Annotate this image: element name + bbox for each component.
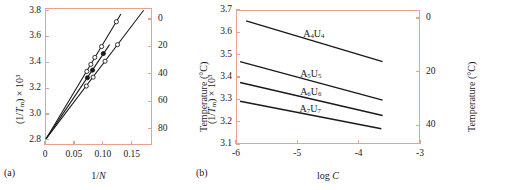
- tick-mark: [131, 141, 132, 145]
- tick-mark: [416, 125, 420, 126]
- tick-mark: [148, 128, 152, 129]
- tick-label: 3.6: [204, 27, 232, 37]
- data-point-marker: [93, 55, 97, 59]
- data-point-marker: [115, 43, 119, 47]
- tick-label: 80: [158, 124, 180, 134]
- tick-mark: [235, 140, 236, 144]
- tick-label: -5: [281, 149, 313, 159]
- panel-a-y-axis-title: (1/Tm) × 103: [14, 75, 25, 124]
- tick-mark: [148, 18, 152, 19]
- data-point-marker: [84, 84, 88, 88]
- tick-label: 3.7: [204, 5, 232, 15]
- tick-label: 0.10: [87, 150, 119, 160]
- tick-mark: [236, 76, 240, 77]
- tick-label: 3.5: [204, 50, 232, 60]
- data-series-series-3: [46, 10, 144, 139]
- tick-label: 3.1: [204, 139, 232, 149]
- tick-label: 0: [158, 14, 180, 24]
- series-line: [46, 45, 110, 139]
- data-point-marker: [101, 52, 105, 56]
- tick-mark: [148, 73, 152, 74]
- panel-b-right-axis-title: Temperature (°C): [466, 62, 477, 132]
- tick-mark: [148, 46, 152, 47]
- panel-b-plot-frame: A4U4A5U5A6U6A7U7: [236, 10, 420, 144]
- tick-label: 2.8: [13, 135, 41, 145]
- tick-mark: [45, 36, 49, 37]
- series-label-A6U6: A6U6: [300, 86, 321, 97]
- tick-label: -4: [343, 149, 375, 159]
- panel-a-x-axis-title: 1/N: [0, 170, 197, 181]
- tick-mark: [419, 140, 420, 144]
- data-point-marker: [103, 59, 107, 63]
- data-point-marker: [114, 20, 118, 24]
- data-series-series-2: [46, 45, 110, 139]
- tick-mark: [44, 141, 45, 145]
- tick-label: -6: [220, 149, 252, 159]
- panel-a-caption: (a): [4, 167, 15, 178]
- data-series-series-1: [46, 14, 121, 139]
- data-point-marker: [89, 62, 93, 66]
- data-point-marker: [91, 75, 95, 79]
- tick-mark: [148, 101, 152, 102]
- tick-label: 0: [426, 13, 448, 23]
- tick-mark: [236, 143, 240, 144]
- tick-mark: [416, 17, 420, 18]
- series-label-A7U7: A7U7: [300, 103, 321, 114]
- tick-label: 40: [158, 69, 180, 79]
- data-point-marker: [85, 76, 89, 80]
- series-line: [46, 14, 121, 139]
- tick-mark: [236, 99, 240, 100]
- tick-label: 60: [158, 96, 180, 106]
- tick-mark: [236, 54, 240, 55]
- tick-mark: [236, 9, 240, 10]
- tick-mark: [236, 121, 240, 122]
- panel-b-y-axis-title: (1/Tm) × 103: [206, 75, 217, 124]
- tick-label: 3.8: [13, 6, 41, 16]
- tick-mark: [45, 10, 49, 11]
- data-point-marker: [100, 45, 104, 49]
- panel-a-plot-frame: [45, 8, 152, 145]
- tick-mark: [45, 139, 49, 140]
- tick-label: 0.15: [116, 150, 148, 160]
- tick-label: 20: [158, 41, 180, 51]
- series-label-A4U4: A4U4: [303, 28, 324, 39]
- tick-label: 0: [29, 150, 61, 160]
- series-line: [46, 10, 144, 139]
- tick-mark: [45, 113, 49, 114]
- data-point-marker: [85, 69, 89, 73]
- data-point-marker: [90, 68, 94, 72]
- figure-container: 2.83.03.23.43.63.8 020406080 00.050.100.…: [0, 0, 506, 190]
- tick-mark: [73, 141, 74, 145]
- tick-mark: [297, 140, 298, 144]
- tick-mark: [358, 140, 359, 144]
- tick-mark: [236, 32, 240, 33]
- series-label-A5U5: A5U5: [300, 68, 321, 79]
- tick-mark: [45, 62, 49, 63]
- panel-b-caption: (b): [196, 167, 208, 178]
- tick-label: 3.4: [13, 57, 41, 67]
- tick-label: 3.6: [13, 31, 41, 41]
- panel-a-data-layer: [46, 9, 151, 144]
- panel-b-x-axis-title: log C: [236, 170, 420, 181]
- tick-label: -3: [404, 149, 436, 159]
- tick-mark: [102, 141, 103, 145]
- tick-mark: [416, 71, 420, 72]
- tick-label: 20: [426, 67, 448, 77]
- panel-b-data-layer: [237, 11, 419, 143]
- tick-mark: [45, 88, 49, 89]
- tick-label: 0.05: [58, 150, 90, 160]
- tick-label: 40: [426, 120, 448, 130]
